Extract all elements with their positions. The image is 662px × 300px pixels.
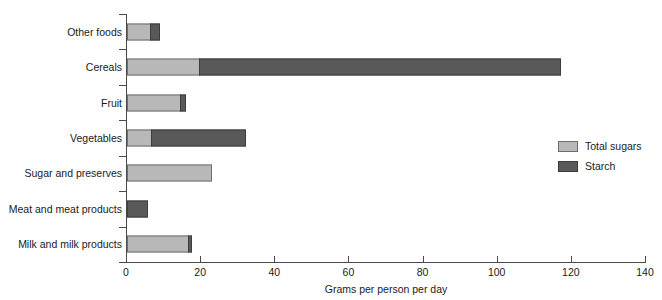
y-axis-tick [119, 120, 126, 121]
x-axis-tick [645, 256, 646, 262]
category-label-meat-and-meat-products: Meat and meat products [0, 203, 122, 215]
bar-segment-total-sugars-fruit[interactable] [127, 94, 181, 111]
bar-cereals[interactable] [127, 59, 561, 76]
chart-row-cereals: Cereals [0, 49, 662, 84]
stacked-bar-chart: Other foodsCerealsFruitVegetablesSugar a… [0, 0, 662, 300]
bar-segment-starch-cereals[interactable] [199, 59, 561, 76]
x-axis-tick-label: 40 [254, 266, 294, 278]
legend-swatch-total-sugars [558, 141, 578, 152]
legend-label-total-sugars: Total sugars [585, 140, 642, 152]
bar-segment-starch-other-foods[interactable] [150, 23, 160, 40]
category-label-sugar-and-preserves: Sugar and preserves [0, 167, 122, 179]
legend-label-starch: Starch [585, 160, 615, 172]
category-label-cereals: Cereals [0, 61, 122, 73]
y-axis-tick [119, 156, 126, 157]
bar-segment-starch-meat-and-meat-products[interactable] [127, 200, 148, 217]
bar-segment-starch-milk-and-milk-products[interactable] [188, 236, 192, 253]
y-axis-tick [119, 85, 126, 86]
bar-other-foods[interactable] [127, 23, 160, 40]
x-axis-tick [274, 256, 275, 262]
category-label-fruit: Fruit [0, 97, 122, 109]
bar-segment-starch-fruit[interactable] [180, 94, 186, 111]
legend-item-total-sugars: Total sugars [558, 136, 642, 156]
x-axis-tick [423, 256, 424, 262]
x-axis-tick [348, 256, 349, 262]
x-axis-tick-label: 140 [625, 266, 662, 278]
chart-row-milk-and-milk-products: Milk and milk products [0, 227, 662, 262]
bar-segment-total-sugars-milk-and-milk-products[interactable] [127, 236, 189, 253]
y-axis-tick [119, 14, 126, 15]
x-axis-tick-label: 80 [403, 266, 443, 278]
bar-fruit[interactable] [127, 94, 186, 111]
chart-row-other-foods: Other foods [0, 14, 662, 49]
category-label-milk-and-milk-products: Milk and milk products [0, 238, 122, 250]
bar-segment-total-sugars-other-foods[interactable] [127, 23, 151, 40]
bar-vegetables[interactable] [127, 129, 246, 146]
bar-segment-total-sugars-sugar-and-preserves[interactable] [127, 165, 212, 182]
x-axis-tick [126, 256, 127, 262]
bar-segment-total-sugars-cereals[interactable] [127, 59, 200, 76]
bar-milk-and-milk-products[interactable] [127, 236, 192, 253]
category-label-other-foods: Other foods [0, 26, 122, 38]
bar-segment-total-sugars-vegetables[interactable] [127, 129, 152, 146]
x-axis-tick-label: 0 [106, 266, 146, 278]
x-axis-tick-label: 100 [477, 266, 517, 278]
x-axis-tick-label: 120 [551, 266, 591, 278]
chart-row-meat-and-meat-products: Meat and meat products [0, 191, 662, 226]
x-axis-tick [200, 256, 201, 262]
chart-row-fruit: Fruit [0, 85, 662, 120]
x-axis-title: Grams per person per day [126, 283, 646, 295]
y-axis-tick [119, 227, 126, 228]
y-axis-tick [119, 262, 126, 263]
category-label-vegetables: Vegetables [0, 132, 122, 144]
x-axis-tick [571, 256, 572, 262]
chart-legend: Total sugars Starch [558, 136, 642, 176]
x-axis-tick-label: 60 [328, 266, 368, 278]
x-axis-tick [497, 256, 498, 262]
bar-segment-starch-vegetables[interactable] [151, 129, 246, 146]
bar-meat-and-meat-products[interactable] [127, 200, 148, 217]
legend-item-starch: Starch [558, 156, 642, 176]
bar-sugar-and-preserves[interactable] [127, 165, 212, 182]
y-axis-tick [119, 49, 126, 50]
y-axis-tick [119, 191, 126, 192]
x-axis-tick-label: 20 [180, 266, 220, 278]
x-axis-line [126, 262, 646, 263]
legend-swatch-starch [558, 161, 578, 172]
